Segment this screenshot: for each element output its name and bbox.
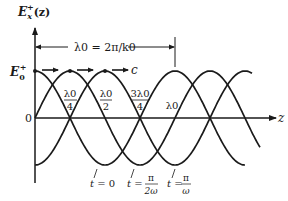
wavelength-annotation: λ0 = 2π/k0: [74, 41, 136, 54]
svg-text:3λ0: 3λ0: [130, 88, 149, 99]
zero-label: 0: [25, 112, 32, 125]
svg-text:π: π: [183, 173, 189, 183]
svg-text:π: π: [148, 173, 154, 183]
wave-propagation-diagram: Ex+(z) E0+ 0 λ0 = 2π/k0 c z λ0 4 λ0 2 3λ…: [0, 0, 288, 201]
velocity-label: c: [131, 63, 138, 77]
marker-full-wavelength: λ0: [166, 100, 179, 111]
diagram-canvas: Ex+(z) E0+ 0 λ0 = 2π/k0 c z λ0 4 λ0 2 3λ…: [0, 0, 288, 201]
curve-label-t0: t = 0: [90, 169, 115, 189]
curve-label-t-pi-over-omega: t = π ω: [167, 169, 191, 196]
y-axis-label: Ex+(z): [17, 2, 50, 21]
svg-text:t =: t =: [167, 178, 183, 189]
peak-dot: [68, 69, 72, 73]
curve-label-t-pi-over-2omega: t = π 2ω: [127, 169, 158, 196]
peak-dot: [103, 69, 107, 73]
svg-text:4: 4: [137, 101, 143, 112]
svg-text:λ0: λ0: [64, 88, 77, 99]
marker-half-wavelength: λ0 2: [100, 88, 113, 112]
svg-text:2: 2: [103, 101, 109, 112]
svg-text:t =: t =: [127, 178, 143, 189]
svg-text:ω: ω: [182, 186, 190, 196]
amplitude-label: E0+: [9, 62, 26, 82]
svg-text:4: 4: [67, 101, 73, 112]
z-axis-label: z: [277, 111, 285, 125]
svg-text:2ω: 2ω: [143, 186, 158, 196]
svg-text:λ0: λ0: [100, 88, 113, 99]
peak-dot: [33, 69, 37, 73]
svg-text:t = 0: t = 0: [90, 178, 115, 189]
marker-three-quarter-wavelength: 3λ0 4: [130, 88, 149, 112]
